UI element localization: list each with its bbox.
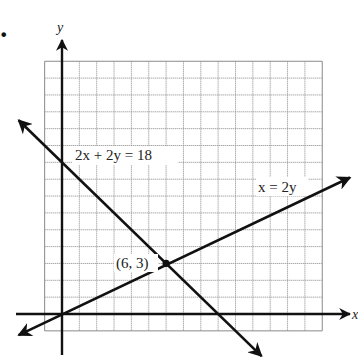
label-line2: x = 2y bbox=[258, 179, 297, 195]
y-axis-label: y bbox=[55, 20, 64, 35]
line-x-eq-2y bbox=[19, 178, 350, 336]
intersection-point bbox=[163, 260, 170, 267]
label-line1: 2x + 2y = 18 bbox=[75, 147, 152, 163]
grid bbox=[45, 61, 323, 331]
x-axis-label: x bbox=[351, 307, 358, 322]
coordinate-plane: x y 2x + 2y = 18 x = 2y (6, 3) bbox=[0, 0, 358, 361]
label-intersection: (6, 3) bbox=[116, 255, 149, 272]
